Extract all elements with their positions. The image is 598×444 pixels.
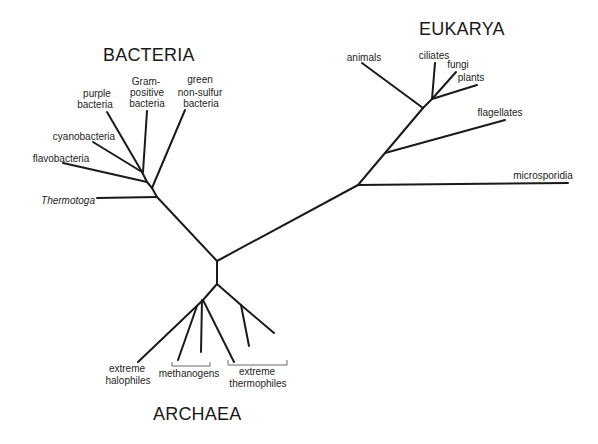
branch-animals — [362, 63, 423, 108]
label-animals: animals — [347, 52, 381, 63]
methanogens-bracket — [172, 362, 210, 366]
label-extreme-halophiles-line2: halophiles — [105, 375, 150, 386]
branch-green-nonsulfur-bacteria — [152, 110, 185, 188]
bacteria-trunk — [157, 197, 217, 261]
label-gram-positive-line3: bacteria — [129, 98, 165, 109]
label-extreme-thermophiles-line2: thermophiles — [229, 378, 286, 389]
label-flavobacteria: flavobacteria — [33, 153, 90, 164]
label-purple-bacteria-line1: purple — [83, 88, 111, 99]
archaea-internal-branch — [203, 284, 217, 300]
label-flagellates: flagellates — [477, 107, 522, 118]
archaea-labels: extreme halophiles methanogens extreme t… — [105, 363, 286, 389]
label-ciliates: ciliates — [419, 50, 450, 61]
branch-methanogen-2 — [201, 300, 202, 352]
branch-flavobacteria — [63, 163, 147, 182]
bacteria-internal-branch — [147, 182, 152, 188]
phylogenetic-tree-diagram: BACTERIA EUKARYA ARCHAEA — [0, 0, 598, 444]
bacteria-internal-branch — [152, 188, 157, 197]
label-plants: plants — [458, 72, 485, 83]
branch-cyanobacteria — [93, 142, 142, 172]
eukarya-internal-branch — [423, 99, 432, 108]
archaea-branches — [138, 284, 274, 362]
domain-title-archaea: ARCHAEA — [153, 404, 241, 424]
label-microsporidia: microsporidia — [513, 170, 573, 181]
eukarya-trunk — [217, 185, 358, 261]
branch-ciliates — [432, 63, 435, 99]
label-fungi: fungi — [447, 59, 469, 70]
branch-thermotoga — [97, 197, 157, 198]
branch-purple-bacteria — [107, 112, 142, 172]
label-extreme-thermophiles-line1: extreme — [239, 366, 276, 377]
label-cyanobacteria: cyanobacteria — [53, 131, 116, 142]
label-green-nonsulfur-line1: green — [187, 74, 213, 85]
archaea-internal-branch — [217, 284, 241, 305]
label-extreme-halophiles-line1: extreme — [109, 363, 146, 374]
eukarya-labels: animals ciliates fungi plants flagellate… — [347, 50, 573, 181]
eukarya-internal-branch — [358, 153, 385, 185]
branch-thermophile-1 — [203, 300, 234, 362]
label-thermotoga: Thermotoga — [41, 195, 95, 206]
label-purple-bacteria-line2: bacteria — [77, 99, 113, 110]
label-green-nonsulfur-line2: non-sulfur — [178, 87, 223, 98]
domain-title-bacteria: BACTERIA — [103, 45, 195, 65]
domain-title-eukarya: EUKARYA — [419, 19, 505, 39]
bacteria-labels: purple bacteria Gram- positive bacteria … — [33, 74, 223, 206]
branch-extreme-halophiles — [138, 300, 203, 362]
label-gram-positive-line2: positive — [130, 87, 164, 98]
label-green-nonsulfur-line3: bacteria — [183, 98, 219, 109]
branch-flagellates — [385, 120, 505, 153]
root-branches — [217, 185, 358, 284]
branch-microsporidia — [358, 183, 568, 185]
eukarya-internal-branch — [385, 108, 423, 153]
branch-gram-positive-bacteria — [143, 111, 147, 172]
label-methanogens: methanogens — [159, 368, 220, 379]
thermophiles-bracket — [228, 360, 287, 365]
label-gram-positive-line1: Gram- — [132, 76, 160, 87]
